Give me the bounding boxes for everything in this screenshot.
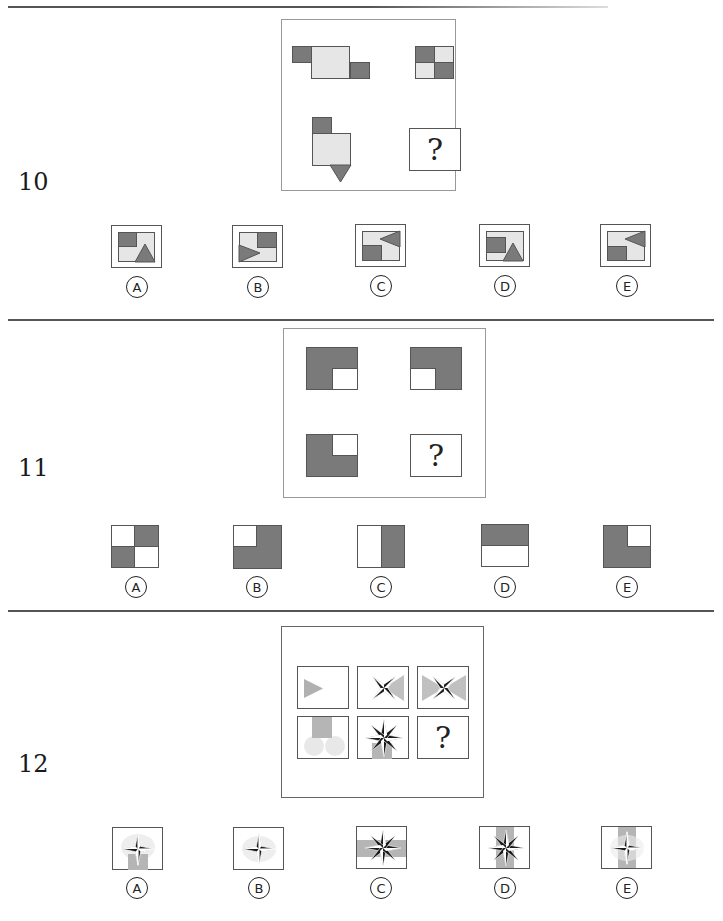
white-quadrant bbox=[332, 434, 358, 456]
option-label: A bbox=[125, 576, 147, 598]
option-label: D bbox=[494, 576, 516, 598]
grid-cell bbox=[297, 666, 349, 709]
light-rectangle bbox=[311, 46, 350, 79]
option-label: B bbox=[247, 276, 269, 298]
option-box[interactable] bbox=[112, 827, 163, 870]
option-label: C bbox=[370, 877, 392, 899]
puzzle-frame: ? bbox=[281, 626, 484, 798]
option-label: C bbox=[370, 275, 392, 297]
option-label: D bbox=[494, 275, 516, 297]
white-quadrant bbox=[134, 546, 159, 568]
puzzle-frame: ? bbox=[281, 19, 456, 191]
divider-top bbox=[8, 6, 608, 8]
option-label: E bbox=[616, 576, 638, 598]
option-box[interactable] bbox=[600, 224, 651, 267]
dark-square bbox=[607, 246, 627, 261]
dark-square bbox=[434, 62, 454, 79]
option-box[interactable] bbox=[111, 525, 159, 568]
grid-cell bbox=[417, 666, 469, 709]
white-half bbox=[481, 545, 529, 567]
white-half bbox=[357, 525, 382, 568]
option-box[interactable] bbox=[601, 826, 652, 869]
option-box[interactable] bbox=[356, 826, 407, 869]
triangle-up-icon bbox=[503, 243, 524, 261]
option-label: A bbox=[126, 877, 148, 899]
triangle-up-icon bbox=[135, 244, 156, 262]
white-quadrant bbox=[233, 525, 257, 547]
gray-rectangle bbox=[312, 717, 332, 738]
dark-half bbox=[481, 524, 529, 546]
option-box[interactable] bbox=[479, 224, 530, 267]
question-number: 11 bbox=[18, 454, 49, 482]
missing-cell: ? bbox=[409, 128, 461, 171]
triangle-right-icon bbox=[239, 245, 261, 263]
triangle-left-icon bbox=[625, 231, 646, 248]
option-label: E bbox=[616, 877, 638, 899]
option-box[interactable] bbox=[111, 225, 162, 268]
compass-star-8-icon bbox=[486, 828, 526, 868]
option-label: E bbox=[616, 275, 638, 297]
compass-star-x-icon bbox=[366, 670, 402, 706]
triangle-down-icon bbox=[330, 165, 352, 183]
dark-square bbox=[292, 46, 312, 63]
white-quadrant bbox=[410, 368, 436, 390]
option-box[interactable] bbox=[481, 524, 529, 567]
compass-star-4-icon bbox=[120, 830, 156, 868]
dark-quadrant bbox=[134, 525, 159, 547]
compass-star-8-icon bbox=[363, 828, 403, 868]
option-box[interactable] bbox=[357, 525, 405, 568]
dark-quadrant bbox=[111, 546, 135, 568]
missing-cell: ? bbox=[410, 434, 462, 477]
white-quadrant bbox=[111, 525, 135, 547]
option-box[interactable] bbox=[355, 224, 406, 267]
option-box[interactable] bbox=[603, 525, 651, 568]
light-rectangle bbox=[312, 133, 351, 166]
divider-q11-q12 bbox=[8, 610, 714, 612]
triangle-left-icon bbox=[380, 231, 401, 248]
option-label: C bbox=[370, 576, 392, 598]
question-number: 10 bbox=[18, 168, 49, 196]
question-number: 12 bbox=[18, 750, 49, 778]
grid-cell bbox=[357, 716, 409, 759]
compass-star-x-icon bbox=[426, 670, 462, 706]
light-square bbox=[415, 62, 435, 79]
divider-q10-q11 bbox=[8, 319, 714, 321]
grid-cell bbox=[357, 666, 409, 709]
option-label: B bbox=[246, 576, 268, 598]
compass-star-4-icon bbox=[241, 830, 277, 868]
dark-square bbox=[312, 117, 332, 134]
missing-cell: ? bbox=[417, 716, 469, 759]
option-box[interactable] bbox=[479, 826, 530, 869]
compass-star-8-icon bbox=[363, 717, 405, 759]
dark-square bbox=[415, 46, 435, 63]
dark-half bbox=[381, 525, 405, 568]
option-label: B bbox=[248, 877, 270, 899]
white-quadrant bbox=[332, 368, 358, 390]
dark-square bbox=[362, 245, 382, 261]
light-square bbox=[434, 46, 454, 63]
option-box[interactable] bbox=[232, 225, 283, 268]
compass-star-4-icon bbox=[609, 829, 645, 867]
option-label: D bbox=[494, 877, 516, 899]
puzzle-frame: ? bbox=[283, 328, 486, 498]
option-box[interactable] bbox=[233, 827, 284, 870]
option-label: A bbox=[126, 276, 148, 298]
grid-cell bbox=[297, 716, 349, 759]
white-quadrant bbox=[627, 525, 651, 547]
dark-square bbox=[350, 62, 370, 79]
triangle-right-icon bbox=[304, 679, 324, 699]
option-box[interactable] bbox=[233, 525, 282, 569]
